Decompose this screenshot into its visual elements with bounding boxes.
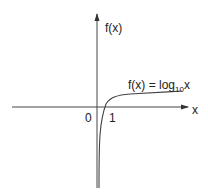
y-axis-label: f(x) [105, 22, 122, 34]
tick-one-label: 1 [109, 112, 116, 124]
function-label-tail: x [184, 78, 190, 92]
plot-area [0, 0, 208, 196]
function-label-main: f(x) = log [128, 78, 175, 92]
chart: f(x) x 0 1 f(x) = log10x [0, 0, 208, 196]
x-axis-label: x [192, 104, 198, 116]
log-curve [99, 91, 182, 188]
origin-label: 0 [85, 112, 92, 124]
function-label-subscript: 10 [175, 85, 184, 94]
function-label: f(x) = log10x [128, 79, 190, 93]
